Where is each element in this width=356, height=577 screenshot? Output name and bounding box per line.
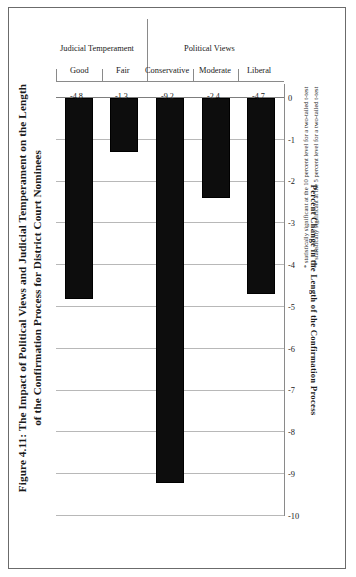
rotated-figure-canvas: Figure 4.11: The Impact of Political Vie… [9, 8, 345, 568]
bar-value-label: -4.8 [70, 93, 83, 101]
value-axis-tick-label: -1 [288, 137, 295, 145]
bar [156, 98, 184, 483]
bar [110, 98, 138, 152]
chart-plot-area [56, 98, 284, 516]
bar-value-label: -1.3 [115, 93, 128, 101]
bar [202, 98, 230, 198]
gridline [56, 515, 284, 516]
value-axis-tick-label: 0 [288, 95, 292, 103]
figure-title-line-1: Figure 4.11: The Impact of Political Vie… [16, 84, 28, 492]
category-tick [238, 69, 239, 81]
value-axis-tick-label: -3 [288, 220, 295, 228]
bar-value-label: -9.2 [161, 93, 174, 101]
footnote-one-star: * statistically significant at the 10 pe… [301, 18, 311, 268]
figure-footnotes: * statistically significant at the 10 pe… [301, 18, 320, 268]
category-label: Good [70, 67, 89, 75]
value-axis-tick-label: -2 [288, 178, 295, 186]
category-tick [193, 69, 194, 81]
figure-title: Figure 4.11: The Impact of Political Vie… [15, 12, 45, 564]
value-axis-tick-label: -9 [288, 471, 295, 479]
bar [65, 98, 93, 299]
category-label: Moderate [199, 67, 231, 75]
value-axis-tick-label: -4 [288, 262, 295, 270]
category-tick [102, 69, 103, 81]
bar [247, 98, 275, 294]
footnote-two-star: ** statistically significant at the 5 pe… [311, 18, 321, 268]
value-axis-tick-label: -7 [288, 387, 295, 395]
category-axis: LiberalModerateConservativeFairGoodPolit… [56, 20, 284, 82]
category-group-label: Judicial Temperament [60, 45, 134, 53]
figure-title-line-2: of the Confirmation Process for District… [30, 12, 45, 564]
category-group-label: Political Views [184, 45, 235, 53]
value-axis-tick-label: -5 [288, 304, 295, 312]
category-label: Liberal [247, 67, 271, 75]
category-tick [56, 69, 57, 81]
value-axis-tick-label: -8 [288, 429, 295, 437]
bar-value-label: -4.7 [252, 93, 265, 101]
bar-value-label: -2.4 [207, 93, 220, 101]
figure-page-frame: Figure 4.11: The Impact of Political Vie… [8, 7, 346, 569]
value-axis-line [284, 84, 285, 516]
category-label: Fair [116, 67, 130, 75]
value-axis-tick-label: -10 [288, 513, 299, 521]
value-axis-tick-label: -6 [288, 346, 295, 354]
category-label: Conservative [145, 67, 189, 75]
